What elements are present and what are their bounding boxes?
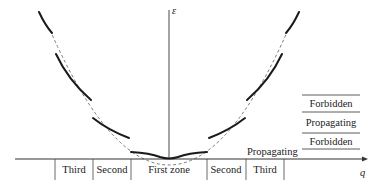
- propagating-label-bottom: Propagating: [247, 146, 298, 157]
- zone-label-second-left: Second: [97, 164, 129, 175]
- zone-label-third-left: Third: [62, 164, 86, 175]
- q-label: q: [360, 167, 365, 178]
- legend-forbidden-top: Forbidden: [309, 98, 353, 109]
- legend-propagating: Propagating: [306, 117, 357, 128]
- legend-forbidden-bottom: Forbidden: [309, 136, 353, 147]
- q-axis-arrow: [362, 157, 368, 162]
- zone-label-second-right: Second: [211, 164, 243, 175]
- zone-label-first: First zone: [148, 164, 190, 175]
- band-structure-diagram: ε q Third Second First zone Second Third…: [0, 0, 381, 186]
- zone-label-third-right: Third: [253, 164, 277, 175]
- epsilon-label: ε: [172, 5, 177, 16]
